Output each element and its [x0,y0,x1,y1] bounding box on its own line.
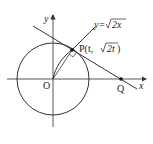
svg-text:2t: 2t [107,43,115,54]
origin-label: O [43,80,50,91]
point-q-label: Q [117,83,125,94]
svg-text:): ) [117,43,120,55]
svg-text:y=: y= [93,19,105,30]
x-axis-label: x [138,80,144,91]
point-p-label: P(t, 2t ) [79,43,120,55]
point-p [70,48,74,52]
svg-text:2x: 2x [112,19,122,30]
curve-label: y= 2x [93,19,126,30]
svg-text:P(t,: P(t, [79,43,93,55]
y-axis-label: y [43,13,49,24]
diagram-canvas: y x O Q y= 2x P(t, 2t ) [0,0,153,144]
point-q [119,77,123,81]
